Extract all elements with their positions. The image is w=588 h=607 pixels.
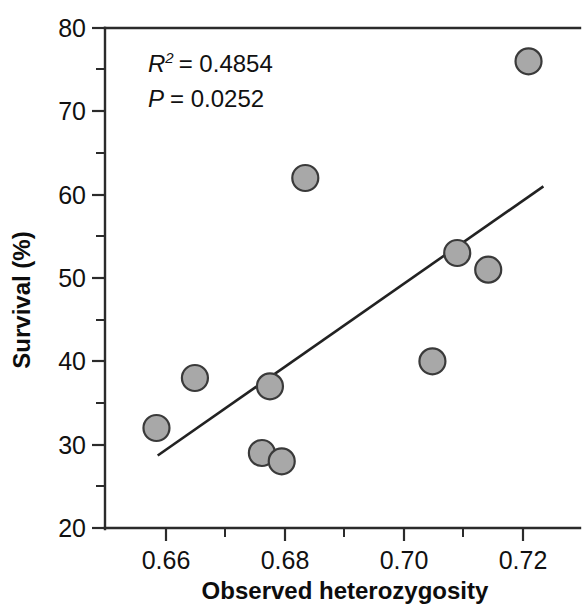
x-tick-label-066: 0.66: [142, 546, 191, 574]
y-tick-label-30: 30: [58, 431, 86, 459]
x-axis-tick-labels: 0.66 0.68 0.70 0.72: [142, 546, 548, 574]
data-point: [143, 415, 169, 441]
data-point-group: [143, 48, 541, 474]
r-squared-annotation: R2= 0.4854: [148, 49, 273, 77]
y-axis-major-ticks: [92, 28, 105, 528]
regression-trendline: [158, 186, 544, 455]
x-tick-label-070: 0.70: [380, 546, 429, 574]
survival-vs-heterozygosity-chart: 80 70 60 50 40 30 20 0.66 0.68 0.70 0.72: [0, 0, 588, 607]
x-tick-label-068: 0.68: [261, 546, 310, 574]
r-squared-exponent: 2: [164, 49, 174, 66]
data-point: [292, 165, 318, 191]
y-tick-label-40: 40: [58, 347, 86, 375]
y-tick-label-50: 50: [58, 264, 86, 292]
x-axis-minor-ticks: [225, 528, 463, 537]
scatter-plot-figure: 80 70 60 50 40 30 20 0.66 0.68 0.70 0.72: [0, 0, 588, 607]
x-axis-title: Observed heterozygosity: [202, 577, 489, 604]
p-value: = 0.0252: [170, 85, 264, 112]
data-point: [182, 365, 208, 391]
data-point: [257, 373, 283, 399]
statistics-annotation: R2= 0.4854 P= 0.0252: [148, 49, 273, 112]
p-symbol: P: [148, 85, 164, 112]
data-point: [419, 348, 445, 374]
y-tick-label-20: 20: [58, 514, 86, 542]
r-squared-symbol: R: [148, 50, 165, 77]
y-tick-label-70: 70: [58, 97, 86, 125]
y-axis-tick-labels: 80 70 60 50 40 30 20: [58, 14, 86, 542]
data-point: [444, 240, 470, 266]
data-point: [516, 48, 542, 74]
y-axis-title: Survival (%): [8, 231, 35, 368]
data-point: [269, 448, 295, 474]
y-tick-label-80: 80: [58, 14, 86, 42]
y-tick-label-60: 60: [58, 181, 86, 209]
data-point: [475, 257, 501, 283]
r-squared-value: = 0.4854: [179, 50, 273, 77]
p-value-annotation: P= 0.0252: [148, 85, 264, 112]
x-tick-label-072: 0.72: [499, 546, 548, 574]
